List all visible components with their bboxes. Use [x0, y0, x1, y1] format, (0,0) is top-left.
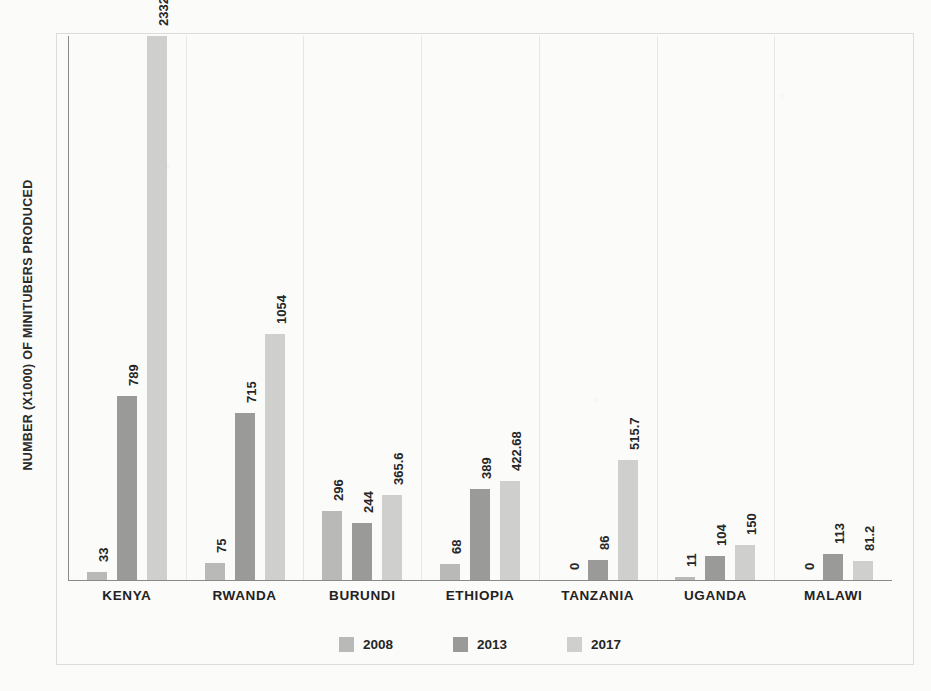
bar[interactable]	[675, 577, 695, 580]
x-axis-category-label: ETHIOPIA	[421, 588, 539, 614]
legend-item[interactable]: 2017	[567, 637, 621, 652]
chart-legend: 200820132017	[68, 632, 892, 656]
bar-group: 757151054	[186, 36, 304, 580]
plot-area: 337892332757151054296244365.668389422.68…	[68, 36, 892, 580]
bar-value-label: 715	[245, 381, 258, 403]
bar-item[interactable]: 1054	[265, 36, 285, 580]
bar-item[interactable]: 150	[735, 36, 755, 580]
bar-group: 086515.7	[539, 36, 657, 580]
x-axis-category-label: UGANDA	[657, 588, 775, 614]
y-axis-title: NUMBER (X1000) OF MINITUBERS PRODUCED	[10, 90, 44, 560]
bar-item[interactable]: 389	[470, 36, 490, 580]
x-axis-labels: KENYARWANDABURUNDIETHIOPIATANZANIAUGANDA…	[68, 588, 892, 614]
bar[interactable]	[823, 554, 843, 580]
legend-label: 2017	[591, 637, 621, 652]
bar[interactable]	[588, 560, 608, 580]
bar[interactable]	[147, 36, 167, 580]
bar-item[interactable]: 296	[322, 36, 342, 580]
bar[interactable]	[352, 523, 372, 580]
bar-group-bars: 68389422.68	[421, 36, 539, 580]
bar-item[interactable]: 86	[588, 36, 608, 580]
bar-value-label: 1054	[275, 295, 288, 324]
bar-group: 68389422.68	[421, 36, 539, 580]
bar-item[interactable]: 515.7	[618, 36, 638, 580]
bar[interactable]	[265, 334, 285, 580]
bar-item[interactable]: 68	[440, 36, 460, 580]
legend-swatch-icon	[339, 637, 354, 652]
bar-value-label: 75	[215, 539, 228, 553]
bar[interactable]	[853, 561, 873, 580]
bar[interactable]	[470, 489, 490, 580]
bar-value-label: 296	[332, 479, 345, 501]
bar[interactable]	[500, 481, 520, 580]
bar-group: 337892332	[68, 36, 186, 580]
bar-item[interactable]: 789	[117, 36, 137, 580]
bar-value-label: 0	[568, 563, 581, 570]
legend-swatch-icon	[453, 637, 468, 652]
bar-item[interactable]: 113	[823, 36, 843, 580]
bar-item[interactable]: 365.6	[382, 36, 402, 580]
bar-group-bars: 757151054	[186, 36, 304, 580]
bar[interactable]	[235, 413, 255, 580]
bar[interactable]	[322, 511, 342, 580]
bar[interactable]	[705, 556, 725, 580]
legend-swatch-icon	[567, 637, 582, 652]
bar-group: 011381.2	[774, 36, 892, 580]
bar-item[interactable]: 104	[705, 36, 725, 580]
bar[interactable]	[205, 563, 225, 580]
bar-item[interactable]: 81.2	[853, 36, 873, 580]
bar-item[interactable]: 33	[87, 36, 107, 580]
bar-item[interactable]: 422.68	[500, 36, 520, 580]
bar-item[interactable]: 11	[675, 36, 695, 580]
bar-group-bars: 011381.2	[774, 36, 892, 580]
legend-label: 2013	[477, 637, 507, 652]
bar-item[interactable]: 244	[352, 36, 372, 580]
x-axis-category-label: MALAWI	[774, 588, 892, 614]
bar-item[interactable]: 0	[558, 36, 578, 580]
bar-item[interactable]: 0	[793, 36, 813, 580]
bar-value-label: 365.6	[392, 452, 405, 485]
legend-item[interactable]: 2008	[339, 637, 393, 652]
bar-value-label: 2332	[157, 0, 170, 26]
bar-value-label: 11	[685, 553, 698, 567]
bar-value-label: 68	[450, 540, 463, 554]
bar-value-label: 104	[715, 524, 728, 546]
bar-item[interactable]: 2332	[147, 36, 167, 580]
legend-label: 2008	[363, 637, 393, 652]
y-axis-title-text: NUMBER (X1000) OF MINITUBERS PRODUCED	[20, 180, 34, 471]
bar-value-label: 244	[362, 491, 375, 513]
bar-value-label: 86	[598, 536, 611, 550]
legend-item[interactable]: 2013	[453, 637, 507, 652]
x-axis-category-label: BURUNDI	[303, 588, 421, 614]
bar-value-label: 81.2	[863, 526, 876, 551]
bar-value-label: 33	[97, 548, 110, 562]
bar-value-label: 515.7	[628, 417, 641, 450]
bar-group-bars: 086515.7	[539, 36, 657, 580]
x-axis-category-label: RWANDA	[186, 588, 304, 614]
bar-group: 11104150	[657, 36, 775, 580]
bar[interactable]	[117, 396, 137, 580]
bar-value-label: 422.68	[510, 431, 523, 471]
bar-item[interactable]: 75	[205, 36, 225, 580]
bar-group-bars: 337892332	[68, 36, 186, 580]
bar-groups: 337892332757151054296244365.668389422.68…	[68, 36, 892, 580]
bar-group-bars: 11104150	[657, 36, 775, 580]
bar-value-label: 389	[480, 457, 493, 479]
x-axis-line	[68, 580, 892, 581]
bar-value-label: 150	[745, 513, 758, 535]
bar-value-label: 0	[803, 563, 816, 570]
bar[interactable]	[618, 460, 638, 580]
bar-item[interactable]: 715	[235, 36, 255, 580]
bar[interactable]	[735, 545, 755, 580]
bar-group: 296244365.6	[303, 36, 421, 580]
bar-value-label: 789	[127, 364, 140, 386]
x-axis-category-label: TANZANIA	[539, 588, 657, 614]
x-axis-category-label: KENYA	[68, 588, 186, 614]
bar[interactable]	[87, 572, 107, 580]
bar-value-label: 113	[833, 523, 846, 544]
bar-group-bars: 296244365.6	[303, 36, 421, 580]
bar[interactable]	[440, 564, 460, 580]
bar[interactable]	[382, 495, 402, 580]
